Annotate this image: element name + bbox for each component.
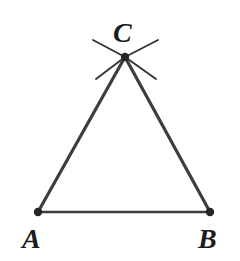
side-CA <box>38 57 125 212</box>
vertex-dots-group <box>34 53 214 216</box>
vertex-label-b: B <box>198 225 217 253</box>
vertex-label-c: C <box>113 19 132 47</box>
vertex-label-a: A <box>22 225 41 253</box>
triangle-sides-group <box>38 57 210 212</box>
side-CB <box>125 57 210 212</box>
vertex-dot-C <box>121 53 129 61</box>
vertex-dot-A <box>34 208 42 216</box>
geometry-figure-canvas: C A B <box>0 0 240 261</box>
vertex-dot-B <box>206 208 214 216</box>
